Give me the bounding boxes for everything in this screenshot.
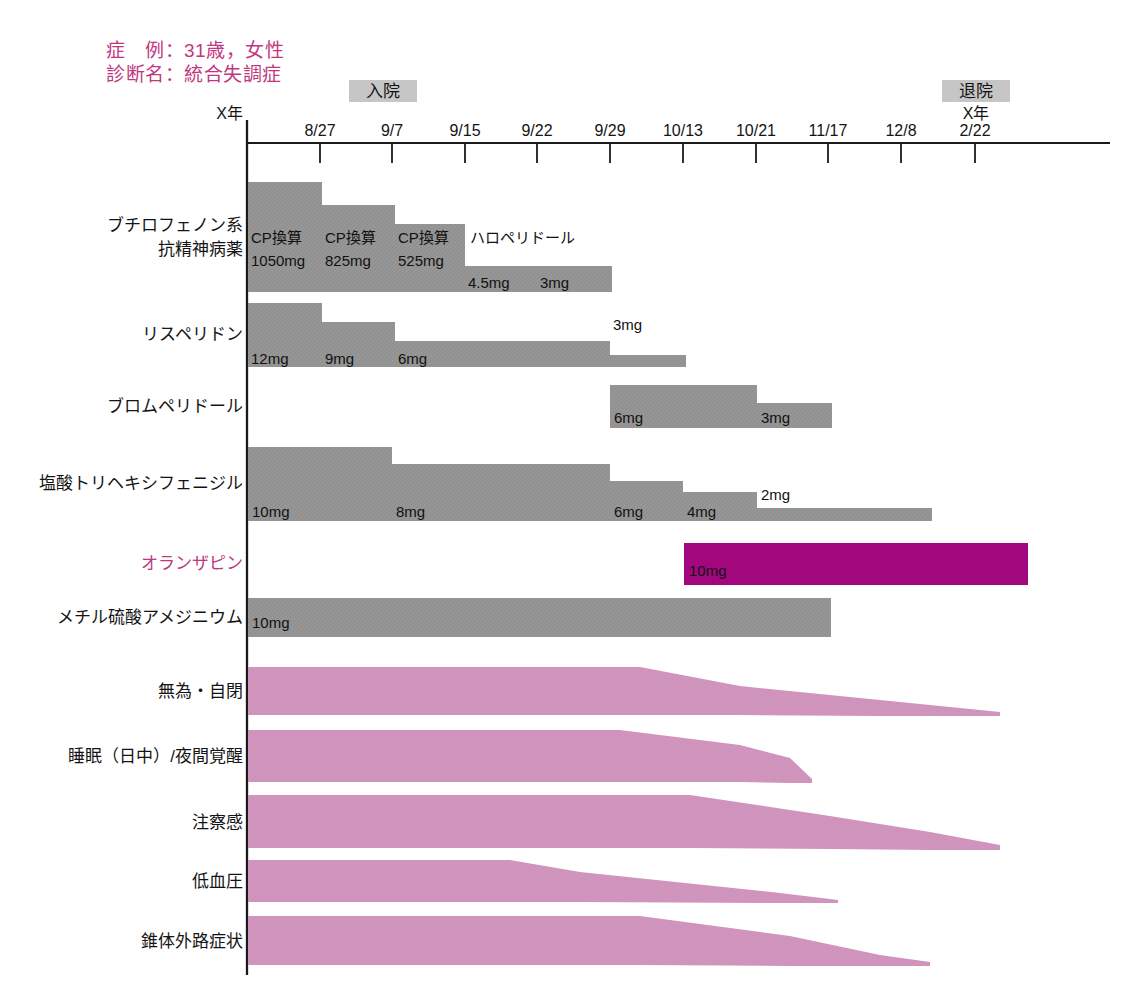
drug-row-label-3: 塩酸トリヘキシフェニジル: [39, 474, 243, 493]
segment-name-label: ハロペリドール: [470, 229, 575, 246]
drug-row-label-2: ブロムペリドール: [107, 396, 243, 416]
drug-bar-segment: [322, 205, 395, 292]
drug-row-label-5: メチル硫酸アメジニウム: [57, 608, 243, 627]
drug-bar-segment: [684, 543, 1028, 585]
segment-dose-label: 12mg: [251, 350, 289, 367]
segment-dose-label: 8mg: [396, 503, 425, 520]
segment-dose-label: 3mg: [761, 409, 790, 426]
axis-tick-label-8: 12/8: [885, 122, 916, 139]
segment-dose-label: 2mg: [761, 486, 790, 503]
segment-name-label: CP換算: [398, 229, 449, 246]
symptom-row-label-2: 注察感: [192, 813, 243, 832]
admission-marker: 入院: [349, 80, 417, 102]
segment-dose-label: 10mg: [252, 503, 290, 520]
axis-tick-label-1: 9/7: [381, 122, 403, 139]
timeline-chart-svg: 症 例：31歳，女性 診断名：統合失調症 入院 退院 X年 X年 8/279/7…: [0, 0, 1145, 1004]
segment-dose-label: 1050mg: [251, 252, 305, 269]
segment-dose-label: 6mg: [398, 350, 427, 367]
segment-dose-label: 6mg: [614, 409, 643, 426]
segment-dose-label: 525mg: [398, 252, 444, 269]
segment-dose-label: 825mg: [325, 252, 371, 269]
segment-dose-label: 4.5mg: [468, 274, 510, 291]
axis-tick-label-7: 11/17: [809, 122, 848, 139]
drug-row-label-0: 抗精神病薬: [158, 240, 243, 259]
segment-dose-label: 10mg: [689, 562, 727, 579]
clinical-course-chart: 症 例：31歳，女性 診断名：統合失調症 入院 退院 X年 X年 8/279/7…: [0, 0, 1145, 1004]
symptom-row-label-0: 無為・自閉: [158, 682, 243, 701]
segment-name-label: CP換算: [251, 229, 302, 246]
segment-dose-label: 6mg: [614, 503, 643, 520]
axis-tick-label-0: 8/27: [304, 122, 335, 139]
drug-row-label-4: オランザピン: [141, 554, 243, 573]
axis-year-start-label: X年: [216, 105, 243, 122]
symptom-row-label-1: 睡眠（日中）/夜間覚醒: [68, 747, 243, 766]
admission-label: 入院: [366, 82, 400, 101]
symptom-row-label-3: 低血圧: [192, 872, 243, 891]
drug-row-label-0: ブチロフェノン系: [107, 215, 243, 235]
segment-dose-label: 3mg: [613, 316, 642, 333]
symptom-row-label-4: 錐体外路症状: [141, 932, 243, 951]
segment-dose-label: 3mg: [540, 274, 569, 291]
axis-tick-label-6: 10/21: [736, 122, 776, 139]
segment-name-label: CP換算: [325, 229, 376, 246]
drug-bar-segment: [757, 508, 932, 521]
drug-bar-segment: [610, 355, 686, 367]
drug-bar-segment: [395, 341, 610, 367]
drug-bar-segment: [248, 598, 831, 637]
drug-row-label-1: リスペリドン: [142, 325, 243, 344]
discharge-marker: 退院: [942, 80, 1010, 102]
segment-dose-label: 4mg: [687, 503, 716, 520]
axis-tick-label-4: 9/29: [594, 122, 625, 139]
segment-dose-label: 10mg: [252, 614, 290, 631]
case-info-line-1: 症 例：31歳，女性: [106, 40, 284, 61]
case-info-line-2: 診断名：統合失調症: [106, 64, 282, 85]
axis-year-end-label: X年: [963, 105, 990, 122]
axis-tick-label-9: 2/22: [959, 122, 990, 139]
axis-tick-label-5: 10/13: [663, 122, 703, 139]
discharge-label: 退院: [959, 82, 993, 101]
segment-dose-label: 9mg: [325, 350, 354, 367]
axis-tick-label-2: 9/15: [449, 122, 480, 139]
axis-tick-label-3: 9/22: [521, 122, 552, 139]
